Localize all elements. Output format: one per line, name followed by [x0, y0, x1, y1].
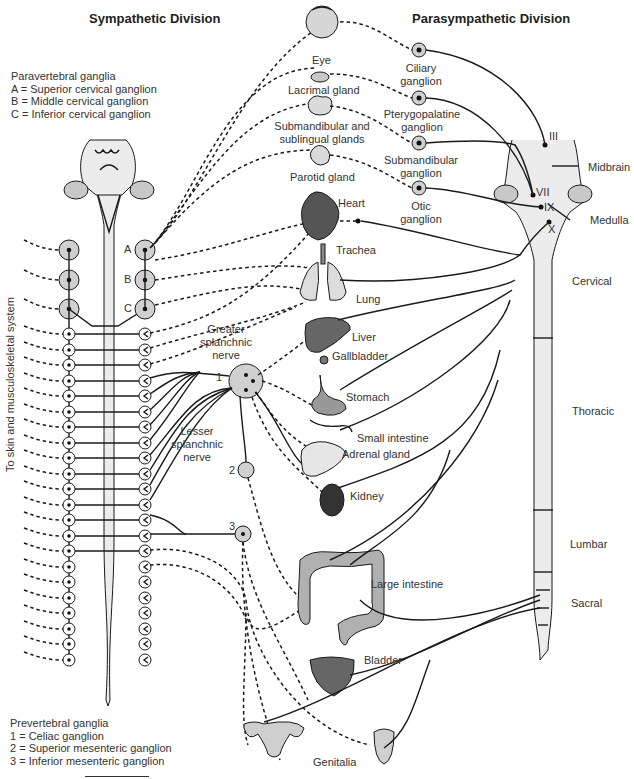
- label-midbrain: Midbrain: [588, 161, 630, 174]
- label-otic-ganglion: Oticganglion: [400, 200, 442, 226]
- label-adrenal: Adrenal gland: [342, 448, 410, 461]
- sympathetic-title: Sympathetic Division: [89, 11, 220, 26]
- cranial-nerve-x: X: [548, 223, 555, 236]
- label-liver: Liver: [352, 331, 376, 344]
- region-lumbar: Lumbar: [570, 538, 607, 551]
- label-large-intestine: Large intestine: [371, 578, 443, 591]
- region-sacral: Sacral: [571, 597, 602, 610]
- legend-item: A = Superior cervical ganglion: [11, 83, 157, 96]
- side-label: To skin and musculoskeletal system: [4, 297, 16, 472]
- label-eye: Eye: [312, 54, 331, 67]
- paravertebral-legend: Paravertebral ganglia A = Superior cervi…: [11, 70, 157, 120]
- label-pterygopalatine-ganglion: Pterygopalatineganglion: [384, 108, 460, 134]
- submandibular-gland-organ: [308, 96, 332, 115]
- legend-item: 1 = Celiac ganglion: [10, 730, 172, 743]
- prostate-organ: [374, 729, 394, 764]
- lacrimal-gland-organ: [311, 72, 329, 82]
- label-kidney: Kidney: [350, 490, 384, 503]
- label-gallbladder: Gallbladder: [332, 350, 388, 363]
- label-lacrimal: Lacrimal gland: [288, 84, 360, 97]
- label-ciliary-ganglion: Ciliaryganglion: [400, 62, 442, 88]
- legend-item: C = Inferior cervical ganglion: [11, 108, 157, 121]
- large-intestine-organ: [298, 550, 384, 645]
- inferior-mesenteric-ganglion: [235, 526, 251, 542]
- label-medulla: Medulla: [590, 214, 629, 227]
- label-small-intestine: Small intestine: [357, 432, 429, 445]
- label-parotid: Parotid gland: [290, 171, 355, 184]
- region-thoracic: Thoracic: [572, 405, 614, 418]
- legend-heading: Prevertebral ganglia: [10, 717, 172, 730]
- label-genitalia: Genitalia: [313, 756, 356, 769]
- legend-item: 3 = Inferior mesenteric ganglion: [10, 755, 172, 768]
- greater-splanchnic-label: Greatersplanchnicnerve: [200, 323, 252, 362]
- label-trachea: Trachea: [336, 244, 376, 257]
- divider: [85, 776, 149, 777]
- ganglion-number-2: 2: [229, 464, 235, 477]
- parasympathetic-title: Parasympathetic Division: [412, 11, 570, 26]
- label-lung: Lung: [356, 293, 380, 306]
- legend-item: 2 = Superior mesenteric ganglion: [10, 742, 172, 755]
- eye-organ: [306, 6, 338, 38]
- legend-heading: Paravertebral ganglia: [11, 70, 157, 83]
- legend-item: B = Middle cervical ganglion: [11, 95, 157, 108]
- label-bladder: Bladder: [364, 654, 402, 667]
- label-heart: Heart: [338, 197, 365, 210]
- ganglion-letter-b: B: [124, 273, 131, 286]
- cranial-nerve-ix: IX: [544, 201, 554, 214]
- right-chain-ganglia: [135, 240, 155, 319]
- heart-organ: [302, 192, 339, 240]
- skin-nerve-lines: [24, 240, 63, 660]
- ganglion-letter-a: A: [124, 243, 131, 256]
- kidney-organ: [320, 484, 344, 516]
- prevertebral-legend: Prevertebral ganglia 1 = Celiac ganglion…: [10, 717, 172, 767]
- celiac-ganglion: [229, 364, 263, 398]
- cranial-nerve-vii: VII: [536, 186, 549, 199]
- label-submandibular-sublingual: Submandibular andsublingual glands: [274, 120, 369, 146]
- bladder-organ: [310, 657, 354, 696]
- cranial-nerve-iii: III: [549, 130, 558, 143]
- adrenal-gland-organ: [301, 442, 346, 477]
- superior-mesenteric-ganglion: [238, 462, 254, 478]
- parotid-gland-organ: [310, 145, 329, 165]
- trachea-organ: [321, 244, 325, 264]
- parasympathetic-brainstem: [494, 140, 592, 660]
- ganglion-number-3: 3: [229, 520, 235, 533]
- ganglion-number-1: 1: [216, 371, 222, 384]
- uterus-organ: [244, 722, 304, 757]
- label-submandibular-ganglion: Submandibularganglion: [384, 154, 458, 180]
- ganglion-letter-c: C: [124, 302, 132, 315]
- region-cervical: Cervical: [572, 275, 612, 288]
- lesser-splanchnic-label: Lessersplanchnicnerve: [171, 425, 223, 464]
- label-stomach: Stomach: [346, 391, 389, 404]
